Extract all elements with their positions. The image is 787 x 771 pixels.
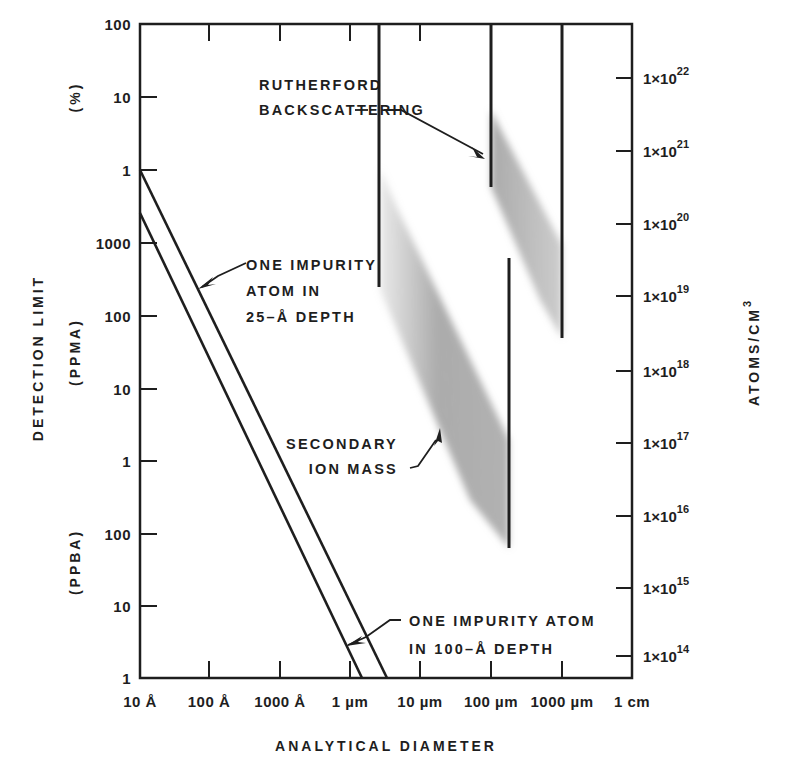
svg-text:1000 µm: 1000 µm (530, 693, 593, 710)
svg-text:1×1018: 1×1018 (643, 358, 689, 380)
left-axis-title: DETECTION LIMIT (30, 275, 46, 441)
annotation-imp100: ONE IMPURITY ATOM IN 100–Å DEPTH (409, 613, 596, 657)
svg-text:1×1021: 1×1021 (643, 138, 689, 160)
svg-text:100 Å: 100 Å (188, 693, 231, 710)
svg-text:1×1019: 1×1019 (643, 283, 689, 305)
right-axis-title: ATOMS/CM3 (741, 298, 762, 406)
svg-text:IN 100–Å DEPTH: IN 100–Å DEPTH (409, 641, 554, 657)
svg-text:10 Å: 10 Å (123, 693, 157, 710)
sims-arrow (410, 428, 442, 468)
svg-text:100: 100 (104, 16, 131, 33)
svg-text:1 µm: 1 µm (332, 693, 369, 710)
svg-text:1000: 1000 (96, 235, 131, 252)
svg-text:100: 100 (104, 526, 131, 543)
plot-frame (140, 24, 632, 678)
svg-text:ONE IMPURITY ATOM: ONE IMPURITY ATOM (409, 613, 596, 629)
svg-text:1×1017: 1×1017 (643, 430, 689, 452)
line-25A-depth (140, 170, 387, 678)
unit-ppba: (PPBA) (67, 529, 83, 595)
right-tick-labels: 1×1022 1×1021 1×1020 1×1019 1×1018 1×101… (643, 65, 690, 665)
svg-text:BACKSCATTERING: BACKSCATTERING (259, 102, 425, 118)
bottom-axis-title: ANALYTICAL DIAMETER (275, 738, 497, 754)
svg-text:10: 10 (113, 89, 131, 106)
svg-text:1000 Å: 1000 Å (254, 693, 305, 710)
svg-text:10: 10 (113, 381, 131, 398)
rbs-band (491, 110, 562, 338)
left-tick-labels: 100 10 1 1000 100 10 1 100 10 1 (96, 16, 131, 687)
annotation-sims: SECONDARY ION MASS (286, 436, 398, 477)
svg-text:1×1016: 1×1016 (643, 503, 689, 525)
svg-text:1×1015: 1×1015 (643, 575, 689, 597)
svg-text:1: 1 (122, 162, 131, 179)
svg-text:1: 1 (122, 670, 131, 687)
svg-text:10: 10 (113, 598, 131, 615)
svg-text:ION MASS: ION MASS (309, 461, 398, 477)
svg-text:RUTHERFORD: RUTHERFORD (259, 77, 383, 93)
svg-text:1×1014: 1×1014 (643, 643, 690, 665)
svg-text:25–Å DEPTH: 25–Å DEPTH (246, 309, 356, 325)
svg-text:1×1022: 1×1022 (643, 65, 689, 87)
svg-text:100: 100 (104, 308, 131, 325)
svg-text:1 cm: 1 cm (614, 693, 650, 710)
right-ticks (616, 78, 632, 656)
unit-ppma: (PPMA) (67, 318, 83, 386)
sims-band (380, 168, 509, 548)
annotation-imp25: ONE IMPURITY ATOM IN 25–Å DEPTH (246, 257, 377, 325)
bottom-tick-labels: 10 Å 100 Å 1000 Å 1 µm 10 µm 100 µm 1000… (123, 693, 650, 710)
detection-limit-chart: 100 10 1 1000 100 10 1 100 10 1 DETECTIO… (0, 0, 787, 771)
svg-text:1×1020: 1×1020 (643, 211, 689, 233)
imp100-arrow (346, 620, 401, 646)
svg-text:ATOM IN: ATOM IN (246, 283, 321, 299)
svg-text:ONE IMPURITY: ONE IMPURITY (246, 257, 377, 273)
imp25-arrow (198, 263, 246, 289)
svg-text:1: 1 (122, 453, 131, 470)
svg-text:10 µm: 10 µm (397, 693, 442, 710)
annotation-rbs: RUTHERFORD BACKSCATTERING (259, 77, 425, 118)
svg-text:SECONDARY: SECONDARY (286, 436, 398, 452)
unit-percent: (%) (67, 82, 83, 113)
svg-text:100 µm: 100 µm (464, 693, 518, 710)
